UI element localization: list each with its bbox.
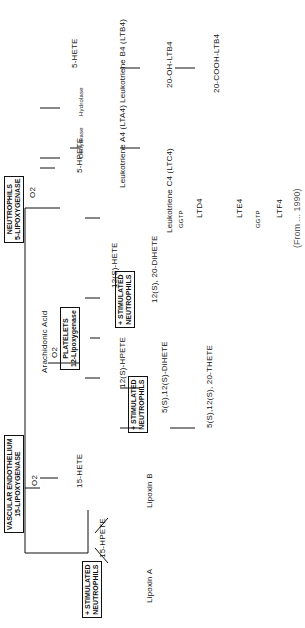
15-lipoxygenase-label: 15-LIPOXYGENASE bbox=[14, 438, 22, 530]
12s-hete-label: 12(S)-HETE bbox=[110, 242, 119, 288]
5-hete-label: 5-HETE bbox=[70, 38, 79, 68]
ltf4-label: LTF4 bbox=[275, 199, 284, 218]
20-cooh-ltb4-label: 20-COOH-LTB4 bbox=[212, 34, 221, 93]
20-oh-ltb4-label: 20-OH-LTB4 bbox=[165, 41, 174, 88]
stimulated-label: + STIMULATED bbox=[84, 564, 92, 615]
15-hete-label: 15-HETE bbox=[75, 454, 84, 488]
15-hpete-label: 15-HPETE bbox=[98, 518, 107, 558]
12s-20-dihete-label: 12(S), 20-DiHETE bbox=[150, 235, 159, 303]
box-neutrophils: NEUTROPHILS 5-LIPOXYGENASE bbox=[4, 176, 24, 243]
ggtp-label-1: GGTP bbox=[178, 210, 184, 228]
arachidonic-acid-label: Arachidonic Acid bbox=[40, 311, 49, 373]
o2-label-15: O2 bbox=[30, 475, 39, 486]
12s-hpete-label: 12(S)-HPETE bbox=[118, 337, 127, 388]
ltb4-label: Leukotriene B4 (LTB4) bbox=[118, 19, 127, 103]
diagram-canvas: VASCULAR ENDOTHELIUM 15-LIPOXYGENASE NEU… bbox=[0, 0, 305, 628]
ltc4-label: Leukotriene C4 (LTC4) bbox=[165, 148, 174, 233]
vascular-label: VASCULAR ENDOTHELIUM bbox=[6, 438, 14, 530]
ggtp-label-2: GGTP bbox=[255, 210, 261, 228]
o2-label-5: O2 bbox=[28, 187, 37, 198]
lipoxin-b-label: Lipoxin B bbox=[145, 473, 154, 508]
box-vascular-endothelium: VASCULAR ENDOTHELIUM 15-LIPOXYGENASE bbox=[4, 435, 24, 533]
5-lipoxygenase-label: 5-LIPOXYGENASE bbox=[14, 179, 22, 240]
stimulated-label: + STIMULATED bbox=[130, 379, 138, 430]
neutrophils-label: NEUTROPHILS bbox=[138, 379, 146, 430]
box-stimulated-neutrophils-2: + STIMULATED NEUTROPHILS bbox=[128, 376, 148, 433]
box-stimulated-neutrophils-1: + STIMULATED NEUTROPHILS bbox=[82, 561, 102, 618]
neutrophils-label: NEUTROPHILS bbox=[125, 274, 133, 325]
dehydrase-label: Dehydrase bbox=[78, 127, 84, 158]
5s-12s-20-trihete-label: 5(S),12(S), 20-THETE bbox=[205, 345, 214, 428]
lte4-label: LTE4 bbox=[235, 199, 244, 218]
o2-label-12: O2 bbox=[50, 347, 59, 358]
5s-12s-dihete-label: 5(S),12(S)-DiHETE bbox=[160, 341, 169, 413]
figure-caption: (From ... 1990) bbox=[292, 188, 302, 248]
lta4-label: Leukotriene A4 (LTA4) bbox=[118, 105, 127, 188]
neutrophils-label: NEUTROPHILS bbox=[6, 179, 14, 240]
hydrolase-label: Hydrolase bbox=[78, 87, 84, 116]
neutrophils-label: NEUTROPHILS bbox=[92, 564, 100, 615]
platelets-label: PLATELETS bbox=[62, 310, 70, 367]
12-lipoxygenase-label: 12-Lipoxygenase bbox=[70, 310, 78, 367]
box-platelets: PLATELETS 12-Lipoxygenase bbox=[60, 307, 80, 370]
ltd4-label: LTD4 bbox=[195, 198, 204, 218]
lipoxin-a-label: Lipoxin A bbox=[145, 569, 154, 603]
